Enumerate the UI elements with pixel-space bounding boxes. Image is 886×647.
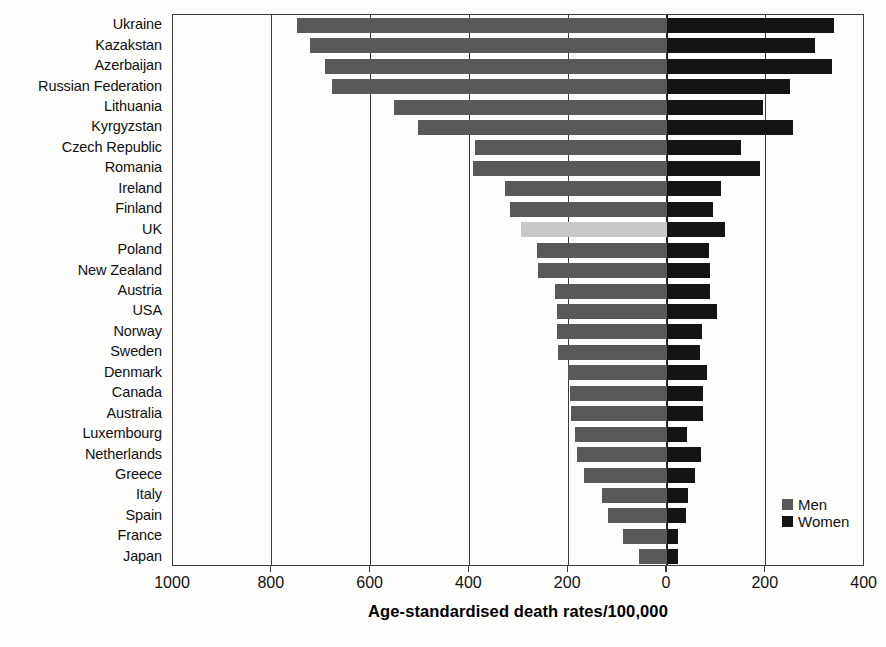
bar-row	[173, 508, 863, 523]
bar-women	[667, 243, 709, 258]
bar-men	[571, 406, 667, 421]
bar-row	[173, 324, 863, 339]
legend-label: Women	[798, 514, 849, 529]
bar-row	[173, 263, 863, 278]
bar-men	[510, 202, 667, 217]
bar-women	[667, 386, 703, 401]
bar-women	[667, 202, 713, 217]
bar-women	[667, 365, 707, 380]
bar-row	[173, 284, 863, 299]
bar-women	[667, 468, 695, 483]
bar-men	[394, 100, 667, 115]
category-label: Romania	[105, 160, 162, 174]
category-label: Russian Federation	[38, 79, 162, 93]
category-label: Azerbaijan	[94, 58, 162, 72]
bar-men	[505, 181, 667, 196]
bar-men	[608, 508, 667, 523]
bar-women	[667, 427, 687, 442]
category-label: Spain	[125, 508, 162, 522]
bar-men	[575, 427, 667, 442]
bar-men	[475, 140, 667, 155]
category-label: Netherlands	[85, 447, 162, 461]
bar-men	[577, 447, 667, 462]
bar-men	[570, 386, 667, 401]
bar-women	[667, 140, 741, 155]
legend-item: Women	[782, 513, 872, 530]
category-label: Denmark	[104, 365, 162, 379]
bar-women	[667, 18, 834, 33]
category-axis-labels: UkraineKazakstanAzerbaijanRussian Federa…	[0, 14, 168, 566]
tick-label: 200	[751, 574, 778, 592]
category-label: Australia	[106, 406, 162, 420]
bar-row	[173, 406, 863, 421]
category-label: Sweden	[110, 344, 162, 358]
category-label: Italy	[136, 487, 162, 501]
bar-men	[584, 468, 667, 483]
tick-label: 400	[850, 574, 877, 592]
legend-item: Men	[782, 496, 872, 513]
tick-mark	[567, 565, 568, 572]
bar-men	[537, 243, 667, 258]
category-label: France	[117, 528, 162, 542]
bar-women	[667, 549, 678, 564]
bar-women	[667, 222, 725, 237]
bar-row	[173, 100, 863, 115]
bar-women	[667, 161, 760, 176]
bar-women	[667, 263, 710, 278]
bar-row	[173, 549, 863, 564]
bar-men	[557, 324, 667, 339]
bar-row	[173, 447, 863, 462]
bar-men	[538, 263, 667, 278]
chart-figure: UkraineKazakstanAzerbaijanRussian Federa…	[0, 0, 886, 647]
bar-row	[173, 38, 863, 53]
bar-row	[173, 427, 863, 442]
tick-label: 400	[455, 574, 482, 592]
bar-row	[173, 140, 863, 155]
category-label: Kazakstan	[95, 38, 162, 52]
bar-row	[173, 79, 863, 94]
bar-row	[173, 243, 863, 258]
bar-row	[173, 468, 863, 483]
bar-women	[667, 324, 702, 339]
bar-men	[325, 59, 667, 74]
bar-men	[602, 488, 667, 503]
category-label: Canada	[112, 385, 162, 399]
bar-men	[521, 222, 667, 237]
category-label: UK	[142, 222, 162, 236]
category-label: Greece	[115, 467, 162, 481]
bar-row	[173, 18, 863, 33]
category-label: New Zealand	[78, 263, 162, 277]
tick-label: 1000	[154, 574, 190, 592]
bar-men	[557, 304, 667, 319]
bar-men	[623, 529, 667, 544]
bar-men	[310, 38, 667, 53]
tick-mark	[270, 565, 271, 572]
bar-women	[667, 345, 700, 360]
bar-row	[173, 345, 863, 360]
bar-men	[332, 79, 667, 94]
bar-women	[667, 304, 717, 319]
square-swatch	[782, 516, 793, 527]
tick-label: 800	[257, 574, 284, 592]
legend-label: Men	[798, 497, 827, 512]
bar-row	[173, 120, 863, 135]
category-label: Ireland	[118, 181, 162, 195]
bar-men	[473, 161, 667, 176]
category-label: Poland	[117, 242, 162, 256]
category-label: Kyrgyzstan	[91, 119, 162, 133]
bar-men	[558, 345, 667, 360]
bar-women	[667, 406, 703, 421]
bar-women	[667, 447, 701, 462]
bar-row	[173, 222, 863, 237]
bar-row	[173, 365, 863, 380]
bar-men	[555, 284, 667, 299]
bar-men	[639, 549, 667, 564]
square-swatch	[782, 499, 793, 510]
tick-label: 200	[554, 574, 581, 592]
category-label: Austria	[118, 283, 162, 297]
tick-mark	[369, 565, 370, 572]
category-label: Norway	[113, 324, 162, 338]
tick-label: 600	[356, 574, 383, 592]
bar-women	[667, 284, 710, 299]
bar-row	[173, 59, 863, 74]
